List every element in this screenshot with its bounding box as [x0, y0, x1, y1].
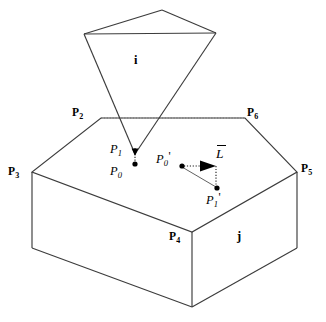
vertex-label-p3: P3	[8, 166, 19, 178]
figure-root: i j P2 P6 P3 P5 P4 P1 P0 P0' P1' L	[0, 0, 326, 322]
cone-top-rim-right-icon	[162, 10, 216, 33]
slab-top-face-icon	[32, 118, 297, 232]
cone-axis-arrowhead-icon	[132, 149, 139, 157]
vector-l-arrowhead-icon	[200, 161, 216, 172]
vertex-label-p4: P4	[169, 231, 180, 243]
vertex-label-p5-base: P	[301, 162, 308, 174]
cone-side-left-icon	[84, 34, 135, 154]
vertex-label-p4-base: P	[169, 230, 176, 242]
cone-top-rim-left-icon	[84, 10, 162, 34]
point-label-p0-sub: 0	[118, 170, 122, 180]
point-label-p1-prime-mark: '	[218, 190, 220, 204]
vertex-label-p2: P2	[72, 107, 83, 119]
point-label-p0-prime-mark: '	[168, 149, 170, 163]
point-p0-dot	[132, 161, 137, 166]
vertex-label-p3-base: P	[8, 165, 15, 177]
face-label-i: i	[134, 54, 137, 67]
vector-label-l-base: L	[216, 146, 224, 161]
vertex-label-p5-sub: 5	[308, 168, 312, 177]
vertex-label-p4-sub: 4	[176, 236, 180, 245]
cone-side-right-icon	[135, 33, 216, 154]
point-label-p1-sub: 1	[118, 148, 122, 158]
cone-top-rim-base-icon	[84, 33, 216, 34]
slab-bottom-right-icon	[192, 248, 297, 307]
slab-bottom-left-icon	[32, 248, 192, 307]
point-label-p0-base: P	[110, 164, 118, 178]
point-label-p1-base: P	[110, 142, 118, 156]
point-label-p0: P0	[110, 165, 122, 178]
vertex-label-p6-sub: 6	[254, 112, 258, 121]
point-label-p0-prime: P0'	[156, 153, 170, 166]
point-label-p1-prime-base: P	[206, 193, 214, 207]
point-label-p1-prime: P1'	[206, 194, 220, 207]
vertex-label-p5: P5	[301, 163, 312, 175]
face-label-j: j	[237, 230, 241, 243]
point-p0-prime-dot	[179, 163, 184, 168]
point-label-p0-prime-base: P	[156, 152, 164, 166]
vertex-label-p2-base: P	[72, 106, 79, 118]
vertex-label-p2-sub: 2	[79, 112, 83, 121]
vertex-label-p3-sub: 3	[15, 171, 19, 180]
point-label-p1: P1	[110, 143, 122, 156]
vertex-label-p6-base: P	[247, 106, 254, 118]
vertex-label-p6: P6	[247, 107, 258, 119]
p0prime-to-p1prime-connector-icon	[182, 167, 216, 187]
vector-label-l: L	[216, 145, 226, 160]
